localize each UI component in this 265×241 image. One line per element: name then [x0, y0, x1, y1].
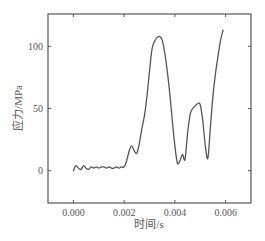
stress-curve [73, 30, 223, 171]
x-tick-label: 0.004 [164, 207, 187, 218]
y-tick-label: 100 [28, 41, 43, 52]
y-tick-label: 0 [38, 165, 43, 176]
x-tick-label: 0.006 [214, 207, 237, 218]
y-tick-label: 50 [33, 103, 43, 114]
y-axis-label: 应力/MPa [11, 85, 24, 131]
stress-time-chart: 0.0000.0020.0040.006050100 时间/s 应力/MPa [0, 0, 265, 241]
x-tick-label: 0.000 [62, 207, 85, 218]
x-axis-label: 时间/s [134, 218, 163, 230]
x-tick-label: 0.002 [113, 207, 136, 218]
axis-tick-labels: 0.0000.0020.0040.006050100 [28, 41, 237, 218]
